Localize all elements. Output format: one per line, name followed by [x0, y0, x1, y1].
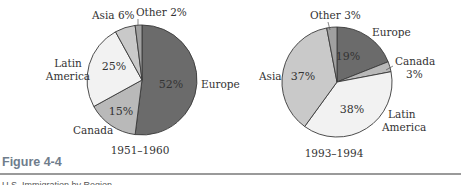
label-europe-1: Europe — [201, 78, 240, 90]
pct-label-europe: 52% — [159, 78, 183, 91]
label-canada-2a: Canada — [395, 55, 435, 67]
label-asia-2: Asia — [258, 70, 282, 82]
pct-label-latin-america: 25% — [102, 60, 126, 73]
pie-charts: 52%15%25% 19%38%37% Asia 6% Other 2% Lat… — [0, 0, 461, 185]
caption-1951-1960: 1951–1960 — [111, 144, 170, 156]
cutoff-caption-text: U.S. Immigration by Region — [2, 178, 112, 185]
label-latin-america-2b: America — [381, 121, 426, 133]
pct-label-asia: 37% — [291, 70, 315, 83]
label-europe-2: Europe — [372, 26, 411, 38]
label-latin-america-1b: America — [45, 70, 90, 82]
pie-chart-1951-1960: 52%15%25% — [87, 25, 197, 135]
label-other-1: Other 2% — [136, 6, 187, 18]
label-latin-america-2a: Latin — [388, 108, 416, 120]
label-asia-1: Asia 6% — [91, 9, 135, 21]
figure-title: Figure 4-4 — [2, 155, 62, 169]
caption-1993-1994: 1993–1994 — [305, 147, 364, 159]
pct-label-canada: 15% — [109, 105, 133, 118]
label-latin-america-1a: Latin — [54, 57, 82, 69]
pct-label-europe: 19% — [336, 50, 360, 63]
label-other-2: Other 3% — [310, 9, 361, 21]
divider-rule — [0, 173, 461, 175]
pie-chart-1993-1994: 19%38%37% — [282, 27, 392, 137]
label-canada-1: Canada — [73, 124, 113, 136]
pct-label-latin-america: 38% — [340, 103, 364, 116]
label-canada-2b: 3% — [406, 68, 423, 80]
